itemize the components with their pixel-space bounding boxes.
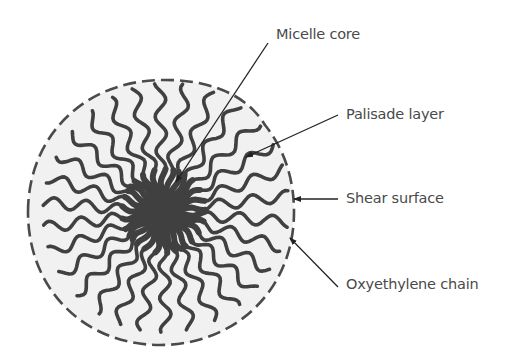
label-oxyethylene-chain: Oxyethylene chain <box>346 276 479 292</box>
label-micelle-core: Micelle core <box>276 26 360 42</box>
micelle-core <box>141 190 185 234</box>
label-palisade-layer: Palisade layer <box>346 106 444 122</box>
micelle-diagram <box>0 0 521 361</box>
label-shear-surface: Shear surface <box>346 190 444 206</box>
leader-oxyethylene-chain <box>290 238 338 287</box>
micelle-body <box>28 80 294 345</box>
